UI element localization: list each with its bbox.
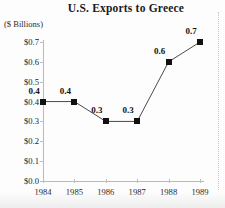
y-tick-label-text: $0.0 [24, 176, 39, 186]
data-point-label: 0.4 [60, 86, 71, 96]
x-tick-mark [74, 179, 75, 183]
data-point-label: 0.4 [28, 86, 39, 96]
y-tick-mark [40, 161, 44, 162]
y-tick-mark [40, 121, 44, 122]
chart-figure: U.S. Exports to Greece ($ Billions) $0.7… [0, 0, 225, 208]
data-point-label: 0.6 [154, 46, 165, 56]
x-tick-mark [169, 179, 170, 183]
y-tick-label-text: $0.4 [24, 97, 39, 107]
y-tick-label-text: $0.3 [24, 116, 39, 126]
data-marker [103, 118, 109, 124]
scan-artifact [0, 192, 225, 208]
x-tick-mark [137, 179, 138, 183]
page-edge-dotted-line [218, 12, 219, 190]
data-marker [134, 118, 140, 124]
data-marker [71, 99, 77, 105]
data-point-label: 0.3 [91, 105, 102, 115]
y-tick-mark [40, 62, 44, 63]
data-point-label: 0.3 [123, 105, 134, 115]
x-tick-mark [200, 179, 201, 183]
y-tick-label-text: $0.2 [24, 136, 39, 146]
y-tick-mark [40, 42, 44, 43]
y-tick-label-text: $0.6 [24, 57, 39, 67]
y-tick-mark [40, 141, 44, 142]
data-point-label: 0.7 [185, 26, 196, 36]
data-marker [40, 99, 46, 105]
y-tick-mark [40, 82, 44, 83]
x-tick-mark [43, 179, 44, 183]
chart-title: U.S. Exports to Greece [52, 2, 200, 14]
y-tick-label-text: $0.7 [24, 37, 39, 47]
data-marker [197, 39, 203, 45]
x-axis-line [43, 181, 204, 182]
y-tick-label-text: $0.1 [24, 156, 39, 166]
y-axis-units-label: ($ Billions) [4, 19, 43, 29]
x-tick-mark [106, 179, 107, 183]
data-marker [166, 59, 172, 65]
